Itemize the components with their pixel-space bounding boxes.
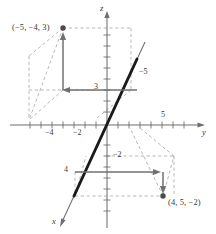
guide-p1-diag-to-axis [29, 28, 63, 120]
axis-arrowheads [60, 11, 205, 227]
point-marker-p2 [160, 193, 165, 198]
tick-label-x-neg5: −5 [139, 67, 148, 76]
point2-arrowheads [153, 169, 166, 194]
guide-p2-diag-upper [140, 128, 174, 156]
x-axis-label: x [52, 216, 56, 226]
guide-p1-diag-lower [97, 90, 131, 118]
z-axis-arrowhead [104, 11, 109, 18]
point-label-p1: (−5, −4, 3) [12, 22, 50, 32]
x-axis-arrowhead [60, 218, 66, 227]
tick-label-z-neg2: −2 [113, 150, 122, 159]
guide-p1-diag-upper [29, 28, 63, 56]
tick-label-y-pos5: 5 [161, 110, 165, 119]
guide-p2-diag-to-axis [130, 128, 163, 196]
tick-label-x-pos4: 4 [64, 165, 68, 174]
coordinate-system-figure: (−5, −4, 3) (4, 5, −2) z y x −5 3 −4 −2 … [0, 0, 216, 234]
point-marker-p1 [60, 25, 65, 30]
point1-arrowheads [60, 32, 70, 93]
point-label-p2: (4, 5, −2) [168, 197, 201, 207]
guide-p2-diag-right [163, 156, 174, 196]
tick-label-y-neg2: −2 [73, 128, 82, 137]
guide-p1-diag-inner [29, 90, 63, 120]
p1-arrowhead-up [60, 32, 66, 40]
tick-label-y-neg4: −4 [45, 128, 54, 137]
dashed-guides [29, 28, 174, 196]
p2-arrowhead-right [153, 169, 161, 175]
p2-arrowhead-down [160, 186, 166, 194]
z-axis-label: z [100, 3, 103, 13]
y-axis-label: y [202, 127, 206, 137]
tick-label-z-pos3: 3 [94, 82, 98, 91]
point2-measure-arrows [75, 172, 163, 189]
heavy-x-axis-segment [74, 59, 137, 196]
